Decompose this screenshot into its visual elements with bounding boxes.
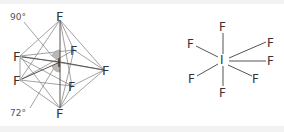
right-i-center: I	[220, 53, 224, 67]
left-f-upper-left: F	[13, 49, 20, 64]
angle-label-90: 90°	[10, 12, 26, 22]
right-f-upper-left: F	[187, 37, 194, 51]
left-f-lower-right: F	[68, 79, 75, 94]
left-f-bottom: F	[56, 106, 63, 121]
left-i-center: I	[57, 55, 61, 70]
right-f-bottom: F	[219, 86, 226, 100]
angle-label-72: 72°	[10, 108, 26, 118]
right-f-upper-right: F	[267, 36, 274, 50]
if7-figure: 90° 72° F F F F F F F I F F F F F F F I	[0, 0, 284, 132]
right-f-right: F	[267, 54, 274, 68]
right-f-lower-left: F	[188, 72, 195, 86]
left-f-upper-right: F	[70, 43, 77, 58]
right-f-lower-right: F	[252, 72, 259, 86]
left-polyhedron	[20, 20, 104, 108]
left-f-lower-left: F	[13, 73, 20, 88]
right-f-top: F	[219, 20, 226, 34]
left-f-top: F	[56, 9, 63, 24]
left-f-right: F	[102, 63, 109, 78]
